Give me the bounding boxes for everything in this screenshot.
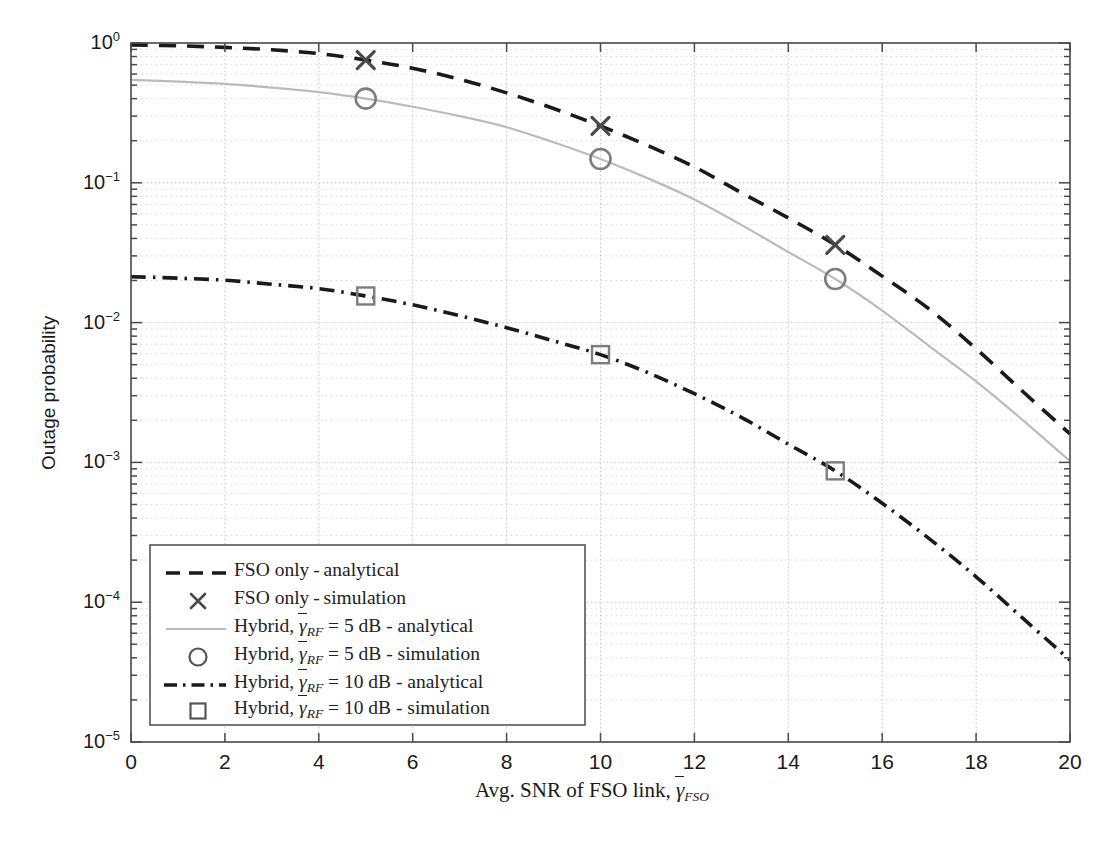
legend-item-label: Hybrid, γRF = 5 dB - simulation xyxy=(234,643,480,668)
legend-item-label: Hybrid, γRF = 10 dB - analytical xyxy=(234,671,483,696)
y-tick-label: 10−5 xyxy=(48,728,120,753)
legend-item-label: FSO only - simulation xyxy=(234,587,406,609)
x-tick-label: 12 xyxy=(664,750,724,774)
x-tick-label: 0 xyxy=(101,750,161,774)
x-tick-label: 2 xyxy=(195,750,255,774)
y-tick-label: 10−4 xyxy=(48,588,120,613)
legend-item-label: Hybrid, γRF = 5 dB - analytical xyxy=(234,615,473,640)
legend-item-label: Hybrid, γRF = 10 dB - simulation xyxy=(234,697,490,722)
x-tick-label: 20 xyxy=(1040,750,1100,774)
legend-item-label: FSO only - analytical xyxy=(234,559,399,581)
y-tick-label: 10−2 xyxy=(48,309,120,334)
x-tick-label: 6 xyxy=(383,750,443,774)
x-axis-label: Avg. SNR of FSO link, γFSO xyxy=(475,778,709,805)
y-axis-label: Outage probability xyxy=(38,316,60,470)
chart-svg xyxy=(0,0,1120,842)
y-tick-label: 100 xyxy=(48,29,120,54)
y-tick-label: 10−1 xyxy=(48,169,120,194)
x-tick-label: 18 xyxy=(946,750,1006,774)
x-tick-label: 10 xyxy=(571,750,631,774)
figure-canvas: Outage probability 10010−110−210−310−410… xyxy=(0,0,1120,842)
y-tick-label: 10−3 xyxy=(48,448,120,473)
x-tick-label: 8 xyxy=(477,750,537,774)
x-tick-label: 14 xyxy=(758,750,818,774)
x-tick-label: 16 xyxy=(852,750,912,774)
x-tick-label: 4 xyxy=(289,750,349,774)
